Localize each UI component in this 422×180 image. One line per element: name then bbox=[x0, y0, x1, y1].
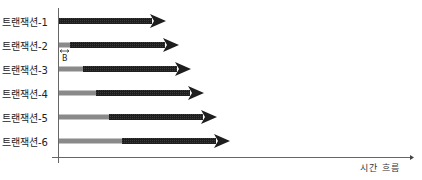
exec-segment-3 bbox=[83, 66, 177, 72]
arrow-head-icon bbox=[175, 62, 191, 76]
timeline-graphic bbox=[0, 0, 422, 180]
arrow-head-icon bbox=[163, 38, 179, 52]
wait-segment-2 bbox=[59, 43, 70, 48]
wait-segment-6 bbox=[59, 139, 122, 144]
x-axis-label: 시간 흐름 bbox=[360, 161, 400, 174]
wait-segment-5 bbox=[59, 115, 109, 120]
exec-segment-5 bbox=[109, 114, 203, 120]
wait-segment-3 bbox=[59, 67, 83, 72]
arrow-head-icon bbox=[150, 14, 166, 28]
exec-segment-4 bbox=[96, 90, 190, 96]
exec-segment-1 bbox=[59, 18, 152, 24]
exec-segment-2 bbox=[70, 42, 165, 48]
wait-segment-4 bbox=[59, 91, 96, 96]
x-axis-arrow-icon bbox=[410, 155, 414, 160]
offset-label: B bbox=[62, 54, 68, 63]
arrow-head-icon bbox=[188, 86, 204, 100]
arrow-head-icon bbox=[201, 110, 217, 124]
arrow-head-icon bbox=[214, 134, 230, 148]
exec-segment-6 bbox=[122, 138, 216, 144]
